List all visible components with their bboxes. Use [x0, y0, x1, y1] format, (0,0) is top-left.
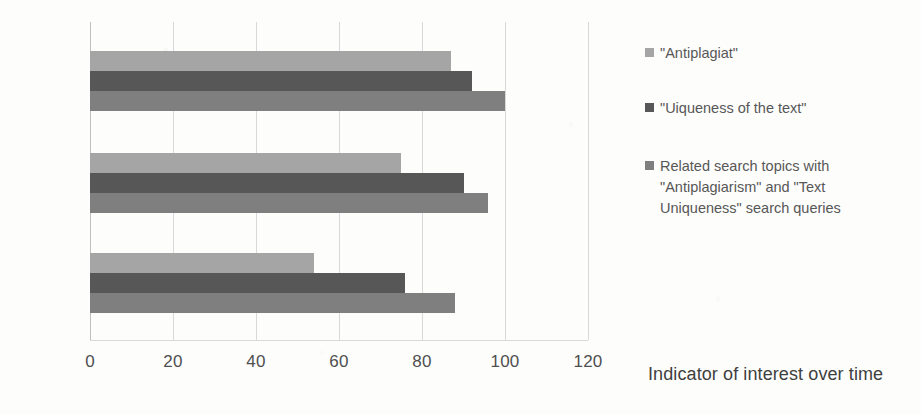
- x-axis-title: Indicator of interest over time: [648, 364, 883, 385]
- legend-label-3: Related search topics with "Antiplagiari…: [660, 156, 841, 219]
- legend-item-1[interactable]: "Antiplagiat": [645, 43, 738, 64]
- bar-2019-series-2[interactable]: [90, 273, 405, 293]
- x-tick-label-100: 100: [491, 352, 520, 372]
- legend-swatch-icon-3: [645, 161, 654, 170]
- bar-chart: 020406080100120 202120202019 "Antiplagia…: [0, 0, 921, 415]
- gridline-120: [588, 22, 589, 340]
- legend-item-3[interactable]: Related search topics with "Antiplagiari…: [645, 156, 841, 219]
- x-tick-label-0: 0: [85, 352, 95, 372]
- x-tick-label-120: 120: [574, 352, 603, 372]
- bar-group-2021: [90, 51, 588, 111]
- bar-2020-series-2[interactable]: [90, 173, 464, 193]
- legend-label-1: "Antiplagiat": [660, 43, 738, 64]
- bar-2020-series-1[interactable]: [90, 153, 401, 173]
- bar-group-2020: [90, 153, 588, 213]
- legend-label-2: "Uiqueness of the text": [660, 98, 807, 119]
- x-axis-baseline: [90, 340, 588, 341]
- bar-2021-series-1[interactable]: [90, 51, 451, 71]
- legend-swatch-icon-1: [645, 48, 654, 57]
- x-tick-label-20: 20: [163, 352, 182, 372]
- legend-item-2[interactable]: "Uiqueness of the text": [645, 98, 807, 119]
- x-tick-label-40: 40: [246, 352, 265, 372]
- x-tick-label-60: 60: [329, 352, 348, 372]
- bar-2020-series-3[interactable]: [90, 193, 488, 213]
- plot-area: [90, 22, 588, 340]
- bar-group-2019: [90, 253, 588, 313]
- bar-2019-series-1[interactable]: [90, 253, 314, 273]
- bar-2019-series-3[interactable]: [90, 293, 455, 313]
- plot-wrapper: 020406080100120 202120202019: [0, 0, 620, 415]
- legend-swatch-icon-2: [645, 103, 654, 112]
- bar-2021-series-2[interactable]: [90, 71, 472, 91]
- bar-2021-series-3[interactable]: [90, 91, 505, 111]
- x-tick-label-80: 80: [412, 352, 431, 372]
